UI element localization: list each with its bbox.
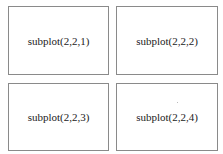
subplot-panel-3: subplot(2,2,3)	[8, 83, 109, 151]
speck-mark	[177, 102, 178, 103]
subplot-panel-4: subplot(2,2,4)	[116, 83, 218, 151]
subplot-label: subplot(2,2,4)	[136, 111, 198, 123]
subplot-panel-2: subplot(2,2,2)	[116, 6, 218, 75]
subplot-label: subplot(2,2,3)	[28, 111, 90, 123]
subplot-label: subplot(2,2,1)	[28, 35, 90, 47]
subplot-label: subplot(2,2,2)	[136, 35, 198, 47]
subplot-panel-1: subplot(2,2,1)	[8, 6, 109, 75]
